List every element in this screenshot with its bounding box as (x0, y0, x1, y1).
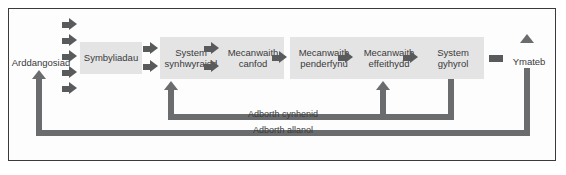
output-label-ymateb: Ymateb (505, 56, 553, 67)
diagram-frame (8, 8, 556, 161)
stimulus-arrow-3 (62, 50, 77, 63)
stimulus-arrow-5 (62, 82, 77, 95)
connector-arrow-penderfynu (338, 51, 353, 64)
external-feedback-arrowhead-arddangosiad (32, 70, 46, 79)
feedback-label-adborth-allanol: Adborth allanol (233, 125, 333, 135)
stimulus-arrow-1 (62, 18, 77, 31)
feedback-label-adborth-cynhenid: Adborth cynhenid (228, 109, 338, 119)
stimulus-arrow-2 (62, 34, 77, 47)
connector-arrow-synhwyraidd-bottom (204, 60, 219, 73)
inherent-feedback-arrowhead-synhwyraidd (164, 81, 178, 90)
information-processing-diagram: Arddangosiad Symbyliadau System synhwyra… (0, 0, 566, 175)
inherent-feedback-riser-effeithydd (380, 90, 386, 116)
stimulus-arrow-4 (62, 66, 77, 79)
connector-arrow-synhwyraidd-top (204, 42, 219, 55)
external-feedback-drop (524, 68, 530, 136)
connector-arrow-symbyliadau-bottom (143, 60, 158, 73)
connector-arrow-symbyliadau-top (143, 42, 158, 55)
stage-box-symbyliadau: Symbyliadau (80, 42, 142, 74)
stage-box-system-gyhyrol: System gyhyrol (422, 37, 484, 79)
connector-dash-response (489, 55, 503, 62)
response-arrowhead-ymateb (520, 34, 534, 43)
inherent-feedback-arrowhead-effeithydd (376, 81, 390, 90)
external-feedback-riser-arddangosiad (36, 79, 42, 134)
inherent-feedback-riser-synhwyraidd (168, 90, 174, 116)
connector-arrow-canfod (272, 51, 287, 64)
connector-arrow-effeithydd (403, 51, 418, 64)
